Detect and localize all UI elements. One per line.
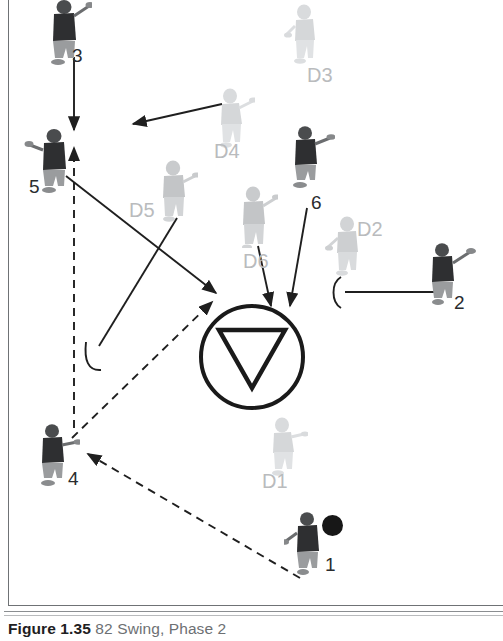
offense-label-4: 4 bbox=[68, 468, 79, 490]
offense-label-5: 5 bbox=[29, 176, 40, 198]
offense-label-3: 3 bbox=[72, 45, 83, 67]
figure-number: Figure 1.35 bbox=[8, 620, 91, 637]
ball bbox=[322, 515, 343, 536]
offense-label-6: 6 bbox=[311, 192, 322, 214]
defense-player-D6 bbox=[232, 186, 278, 248]
goal-triangle-icon bbox=[219, 330, 285, 388]
figure-title: 82 Swing, Phase 2 bbox=[95, 620, 226, 637]
offense-label-1: 1 bbox=[325, 554, 336, 576]
defense-label-D2: D2 bbox=[357, 218, 383, 241]
movement-pass-4-to-crease bbox=[72, 302, 212, 438]
offense-player-6 bbox=[283, 126, 329, 188]
caption-rule-top bbox=[4, 611, 503, 612]
defense-player-D3 bbox=[283, 4, 329, 66]
screen-hook-right bbox=[334, 277, 342, 308]
movement-cut-6-to-goal bbox=[290, 208, 307, 306]
defense-label-D6: D6 bbox=[243, 250, 269, 273]
screen-hook-left bbox=[86, 342, 101, 370]
goal-crease-circle bbox=[201, 306, 303, 408]
defense-player-D5 bbox=[152, 160, 198, 222]
defense-label-D1: D1 bbox=[262, 470, 288, 493]
movement-screen-line-to-d5 bbox=[99, 218, 177, 346]
defense-label-D4: D4 bbox=[214, 140, 240, 163]
caption-rule-bottom bbox=[4, 615, 503, 616]
offense-label-2: 2 bbox=[454, 292, 465, 314]
defense-label-D5: D5 bbox=[129, 199, 155, 222]
figure-caption: Figure 1.35 82 Swing, Phase 2 bbox=[8, 620, 488, 638]
defense-label-D3: D3 bbox=[307, 64, 333, 87]
figure-page: D3 D4 D5 D6 bbox=[0, 0, 503, 641]
